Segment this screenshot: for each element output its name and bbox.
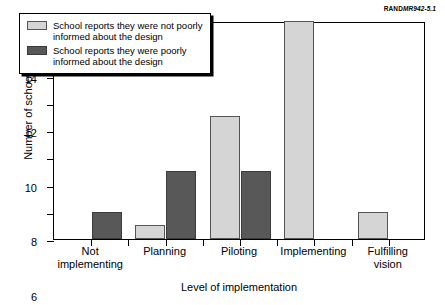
source-credit-tag: RANDMR942-5.1: [384, 5, 436, 12]
light-gray-swatch-icon: [27, 21, 47, 30]
x-axis-category-label: Not implementing: [57, 245, 122, 271]
y-axis-tick: 0: [47, 241, 54, 242]
legend-entry-not-poorly-informed: School reports they were not poorly info…: [27, 20, 202, 42]
source-reference-label: MR942-5.1: [403, 5, 436, 12]
y-axis-tick: 4: [47, 187, 54, 188]
bar: [135, 225, 165, 239]
legend-entry-poorly-informed: School reports they were poorly informed…: [27, 45, 202, 67]
bar: [358, 212, 388, 239]
y-axis-tick-label: 10: [7, 182, 37, 194]
bar: [166, 171, 196, 239]
x-axis-tick: [277, 239, 278, 246]
x-axis-tick: [352, 239, 353, 246]
dark-gray-swatch-icon: [27, 46, 47, 55]
legend-entry-label: School reports they were poorly informed…: [53, 45, 187, 67]
y-axis-tick-label: 6: [7, 291, 37, 303]
x-axis-category-label: Implementing: [280, 245, 346, 258]
x-axis-tick: [203, 239, 204, 246]
y-axis-tick: 2: [47, 214, 54, 215]
y-axis-tick: 8: [47, 132, 54, 133]
bar-chart-figure: RANDMR942-5.1 Number of schools 02468101…: [0, 0, 445, 305]
bar: [241, 171, 271, 239]
source-org-label: RAND: [384, 5, 403, 12]
y-axis-tick-label: 8: [7, 236, 37, 248]
chart-legend: School reports they were not poorly info…: [19, 13, 211, 74]
y-axis-tick: 6: [47, 159, 54, 160]
bar: [210, 116, 240, 239]
y-axis-tick-label: 14: [7, 73, 37, 85]
y-axis-tick-label: 12: [7, 127, 37, 139]
y-axis-tick: 10: [47, 105, 54, 106]
bar: [92, 212, 122, 239]
y-axis-tick: 12: [47, 78, 54, 79]
x-axis-tick: [128, 239, 129, 246]
x-axis-category-label: Piloting: [221, 245, 257, 258]
legend-entry-label: School reports they were not poorly info…: [53, 20, 202, 42]
bar: [284, 21, 314, 239]
x-axis-title: Level of implementation: [53, 281, 425, 293]
x-axis-category-label: Fulfilling vision: [368, 245, 408, 271]
x-axis-category-label: Planning: [143, 245, 186, 258]
